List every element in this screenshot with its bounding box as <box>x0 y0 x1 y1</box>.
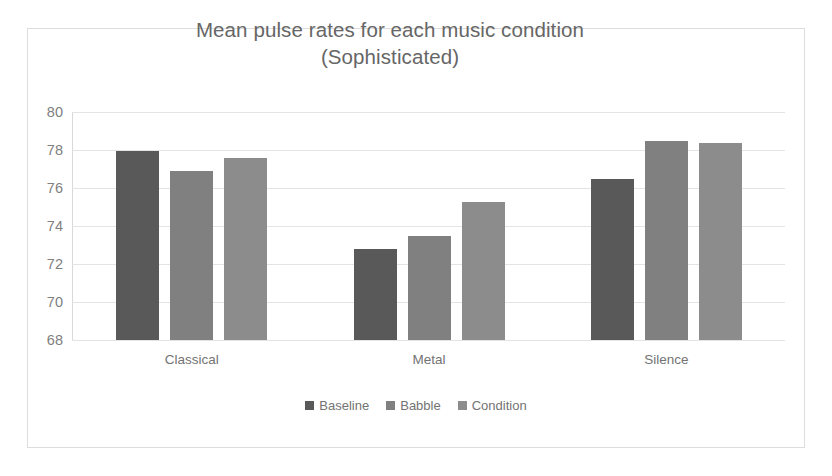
gridline <box>72 340 785 341</box>
gridline <box>72 112 785 113</box>
y-axis-tick-label: 68 <box>47 332 63 348</box>
chart-legend: BaselineBabbleCondition <box>0 398 832 413</box>
legend-item[interactable]: Baseline <box>305 398 369 413</box>
legend-swatch-icon <box>386 401 395 410</box>
y-axis-tick-label: 78 <box>47 142 63 158</box>
x-axis-category-label: Metal <box>412 352 445 367</box>
y-axis-tick-label: 74 <box>47 218 63 234</box>
bar <box>645 141 688 340</box>
legend-label: Babble <box>400 398 440 413</box>
x-axis-category-label: Silence <box>644 352 688 367</box>
chart-title-line-1: Mean pulse rates for each music conditio… <box>60 16 720 43</box>
bar <box>699 143 742 340</box>
chart-title: Mean pulse rates for each music conditio… <box>60 16 720 70</box>
bar <box>408 236 451 341</box>
chart-figure: Mean pulse rates for each music conditio… <box>0 0 832 476</box>
legend-swatch-icon <box>458 401 467 410</box>
y-axis-tick-label: 70 <box>47 294 63 310</box>
y-axis-tick-label: 72 <box>47 256 63 272</box>
chart-title-line-2: (Sophisticated) <box>60 43 720 70</box>
legend-swatch-icon <box>305 401 314 410</box>
legend-label: Condition <box>472 398 527 413</box>
plot-area: 68707274767880 ClassicalMetalSilence <box>45 112 803 340</box>
legend-label: Baseline <box>319 398 369 413</box>
bar <box>462 202 505 340</box>
bar <box>224 158 267 340</box>
legend-item[interactable]: Babble <box>386 398 440 413</box>
bar <box>354 249 397 340</box>
legend-item[interactable]: Condition <box>458 398 527 413</box>
bar <box>591 179 634 341</box>
x-axis-category-label: Classical <box>165 352 219 367</box>
bar <box>170 171 213 340</box>
y-axis-tick-label: 80 <box>47 104 63 120</box>
y-axis-tick-label: 76 <box>47 180 63 196</box>
bar <box>116 151 159 340</box>
